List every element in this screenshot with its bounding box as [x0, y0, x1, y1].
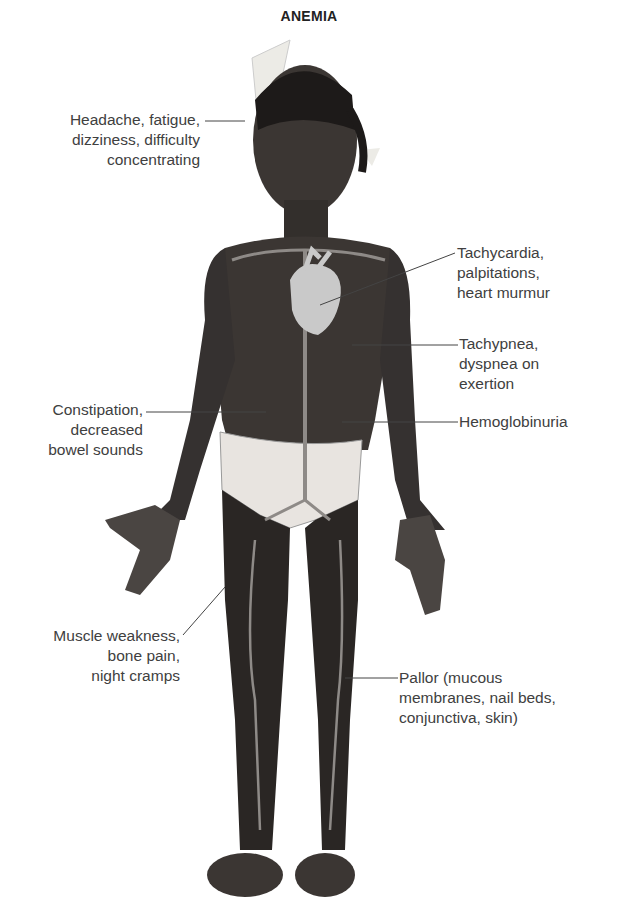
left-foot	[207, 853, 283, 897]
label-bowel-symptoms: Constipation, decreased bowel sounds	[5, 400, 143, 460]
label-kidney-symptoms: Hemoglobinuria	[459, 412, 568, 432]
label-muscle-symptoms: Muscle weakness, bone pain, night cramps	[5, 626, 180, 686]
label-pallor-symptoms: Pallor (mucous membranes, nail beds, con…	[399, 668, 556, 728]
left-leg	[222, 490, 290, 850]
label-lung-symptoms: Tachypnea, dyspnea on exertion	[459, 334, 539, 394]
label-heart-symptoms: Tachycardia, palpitations, heart murmur	[457, 243, 550, 303]
label-head-symptoms: Headache, fatigue, dizziness, difficulty…	[10, 110, 200, 170]
right-foot	[295, 853, 355, 897]
right-arm	[380, 248, 445, 530]
left-hand	[105, 505, 180, 595]
